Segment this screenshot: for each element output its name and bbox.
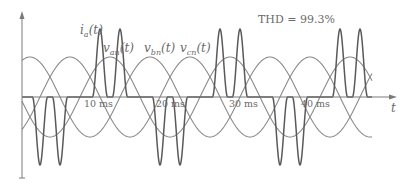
x-axis-arrow-icon [389, 95, 397, 100]
waveform-plot: 10 ms 20 ms 30 ms 40 ms t THD = 99.3% ia… [0, 0, 411, 185]
thd-waveform-figure: 10 ms 20 ms 30 ms 40 ms t THD = 99.3% ia… [0, 0, 411, 185]
tick-label-20ms: 20 ms [156, 98, 185, 109]
label-vbn: vbn(t) [144, 41, 176, 57]
tick-label-10ms: 10 ms [84, 98, 113, 109]
axes [19, 11, 397, 178]
label-vcn: vcn(t) [180, 41, 211, 57]
tick-label-40ms: 40 ms [301, 98, 330, 109]
label-van: van(t) [103, 41, 134, 57]
y-axis-arrow-icon [20, 11, 25, 19]
x-axis-label-t: t [391, 101, 396, 115]
tick-label-30ms: 30 ms [229, 98, 258, 109]
thd-annotation: THD = 99.3% [258, 13, 335, 26]
label-ia: ia(t) [80, 23, 103, 39]
